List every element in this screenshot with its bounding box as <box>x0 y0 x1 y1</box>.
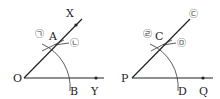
step-mark-2: ㉡ <box>70 38 79 48</box>
arc-cd <box>150 44 178 91</box>
label-a: A <box>48 30 58 43</box>
step-mark-5: ㉤ <box>177 38 186 48</box>
label-c: C <box>155 30 163 43</box>
step-mark-3: ㉢ <box>189 9 198 19</box>
label-d: D <box>178 85 187 98</box>
label-b: B <box>70 85 78 98</box>
step-mark-1: ㉠ <box>35 29 44 39</box>
ray-ox <box>24 19 82 78</box>
label-y: Y <box>90 85 99 98</box>
label-q: Q <box>199 85 208 98</box>
point-q-dot <box>201 76 204 79</box>
ray-p-upper <box>132 19 190 78</box>
point-y-dot <box>94 76 97 79</box>
label-o: O <box>13 72 22 85</box>
figure-left: O X Y A B ㉠ ㉡ <box>13 7 104 98</box>
figure-right: P ㉢ Q C D ㉣ ㉤ <box>121 9 213 98</box>
point-x-dot <box>74 23 77 26</box>
label-p: P <box>121 72 129 85</box>
label-x: X <box>66 7 74 20</box>
arc-ab <box>42 44 70 91</box>
step-mark-4: ㉣ <box>143 29 152 39</box>
angle-construction-diagram: O X Y A B ㉠ ㉡ P ㉢ Q C D ㉣ ㉤ <box>0 0 220 99</box>
